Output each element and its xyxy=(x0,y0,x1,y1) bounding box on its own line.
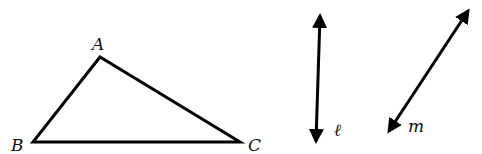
line-l xyxy=(316,16,320,141)
vertex-label-b: B xyxy=(10,135,24,154)
line-label-m: m xyxy=(408,116,424,136)
geometry-diagram: A B C ℓ m xyxy=(0,0,482,154)
line-m xyxy=(389,11,468,131)
line-label-l: ℓ xyxy=(334,120,341,140)
triangle-abc xyxy=(33,57,240,142)
vertex-label-c: C xyxy=(248,135,261,154)
diagram-svg: A B C ℓ m xyxy=(0,0,482,154)
vertex-label-a: A xyxy=(90,34,104,54)
